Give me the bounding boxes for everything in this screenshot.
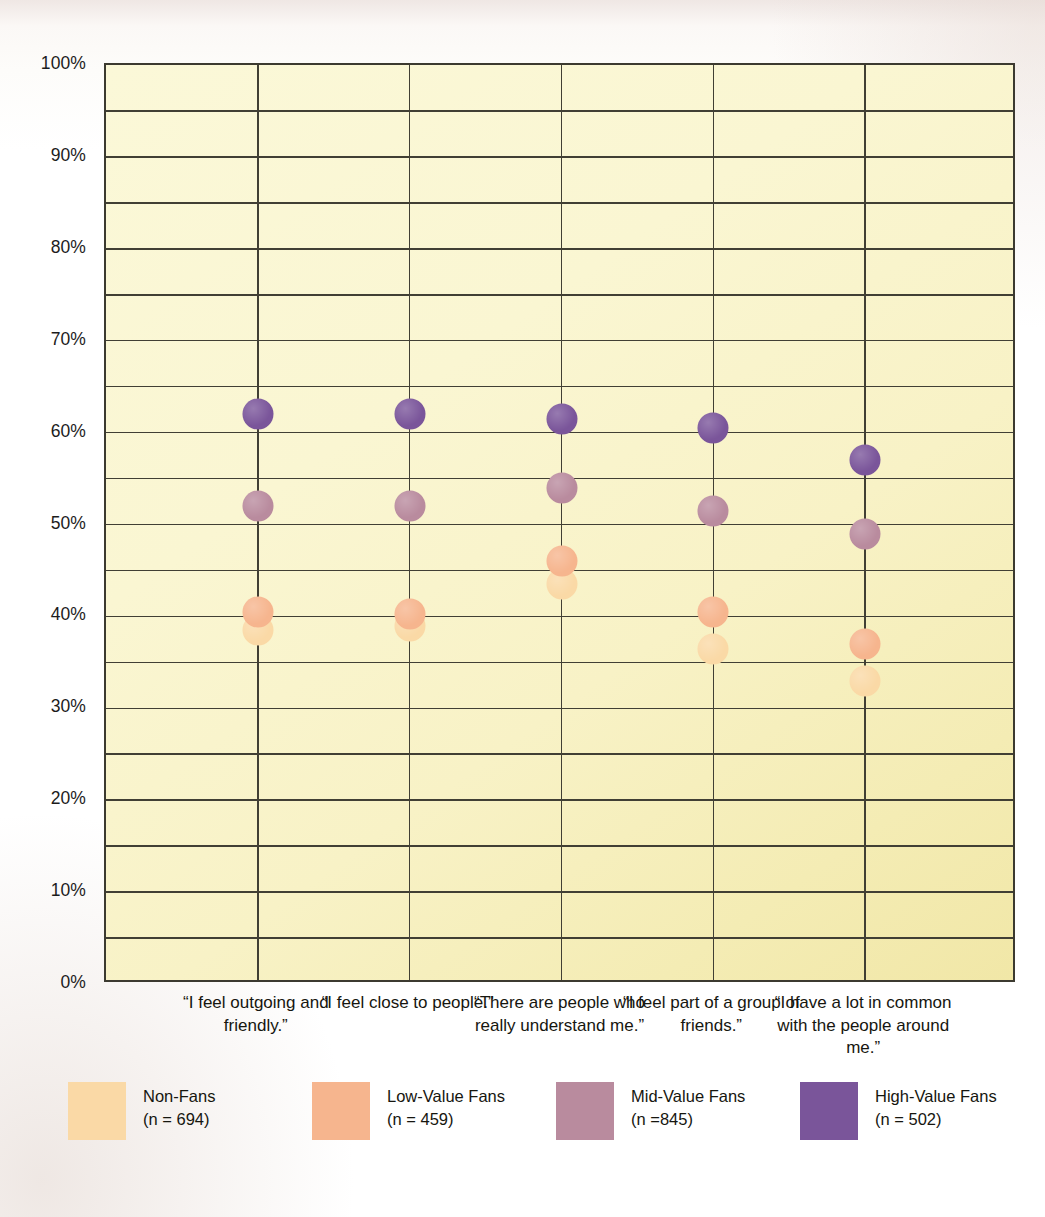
chart-plot-area	[104, 63, 1015, 982]
gridline-h-35	[106, 662, 1013, 664]
legend-item-low-value-fans[interactable]: Low-Value Fans(n = 459)	[312, 1082, 505, 1140]
legend-label: High-Value Fans(n = 502)	[875, 1082, 997, 1131]
legend-label: Low-Value Fans(n = 459)	[387, 1082, 505, 1131]
legend-series-name: High-Value Fans	[875, 1087, 997, 1105]
gridline-h-70	[106, 340, 1013, 342]
data-point	[242, 491, 273, 522]
chart-plot-wrapper	[104, 63, 1015, 982]
gridline-h-10	[106, 891, 1013, 893]
data-point	[850, 628, 881, 659]
gridline-h-20	[106, 799, 1013, 801]
data-point	[698, 596, 729, 627]
data-point	[698, 495, 729, 526]
gridline-h-95	[106, 110, 1013, 112]
legend-item-mid-value-fans[interactable]: Mid-Value Fans(n =845)	[556, 1082, 745, 1140]
legend-swatch-icon	[556, 1082, 614, 1140]
legend-sample-size: (n = 459)	[387, 1108, 505, 1131]
data-point	[546, 403, 577, 434]
data-point	[394, 598, 425, 629]
data-point	[850, 665, 881, 696]
gridline-v-2	[409, 65, 411, 980]
legend-series-name: Low-Value Fans	[387, 1087, 505, 1105]
legend-series-name: Non-Fans	[143, 1087, 215, 1105]
legend-series-name: Mid-Value Fans	[631, 1087, 745, 1105]
gridline-h-75	[106, 294, 1013, 296]
data-point	[698, 413, 729, 444]
x-axis-category-labels: “I feel outgoing and friendly.”“I feel c…	[104, 992, 1015, 1070]
gridline-h-30	[106, 708, 1013, 710]
data-point	[546, 472, 577, 503]
legend-swatch-icon	[800, 1082, 858, 1140]
legend-sample-size: (n = 694)	[143, 1108, 215, 1131]
data-point	[850, 445, 881, 476]
legend-label: Non-Fans(n = 694)	[143, 1082, 215, 1131]
legend-item-non-fans[interactable]: Non-Fans(n = 694)	[68, 1082, 215, 1140]
gridline-v-1	[257, 65, 259, 980]
gridline-h-85	[106, 202, 1013, 204]
gridline-h-15	[106, 845, 1013, 847]
data-point	[242, 596, 273, 627]
gridline-v-3	[561, 65, 563, 980]
chart-legend: Non-Fans(n = 694)Low-Value Fans(n = 459)…	[0, 1082, 1045, 1162]
legend-item-high-value-fans[interactable]: High-Value Fans(n = 502)	[800, 1082, 997, 1140]
data-point	[242, 399, 273, 430]
data-point	[394, 491, 425, 522]
data-point	[546, 546, 577, 577]
gridline-h-90	[106, 156, 1013, 158]
legend-sample-size: (n = 502)	[875, 1108, 997, 1131]
gridline-h-25	[106, 753, 1013, 755]
gridline-h-80	[106, 248, 1013, 250]
gridline-h-65	[106, 386, 1013, 388]
legend-swatch-icon	[312, 1082, 370, 1140]
legend-label: Mid-Value Fans(n =845)	[631, 1082, 745, 1131]
data-point	[394, 399, 425, 430]
data-point	[698, 633, 729, 664]
legend-swatch-icon	[68, 1082, 126, 1140]
data-point	[850, 518, 881, 549]
x-category-label-4: “I have a lot in common with the people …	[768, 992, 958, 1060]
legend-sample-size: (n =845)	[631, 1108, 745, 1131]
gridline-h-5	[106, 937, 1013, 939]
